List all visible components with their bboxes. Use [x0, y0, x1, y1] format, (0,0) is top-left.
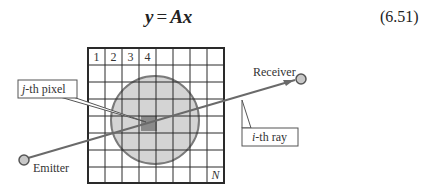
cell-label-2: 2	[111, 50, 117, 64]
cell-label-4: 4	[145, 50, 151, 64]
receiver-node	[296, 74, 306, 84]
receiver-label: Receiver	[253, 65, 296, 79]
ray-callout-suffix: -th ray	[255, 130, 287, 144]
pixel-grid	[88, 48, 224, 183]
emitter-label: Emitter	[33, 161, 69, 175]
pixel-callout-suffix: -th pixel	[25, 82, 66, 96]
cell-label-1: 1	[94, 50, 100, 64]
ray-callout-text: i-th ray	[252, 130, 287, 144]
cell-label-3: 3	[128, 50, 134, 64]
pixel-callout-text: j-th pixel	[20, 82, 66, 96]
ray-callout: i-th ray	[242, 100, 298, 146]
emitter-node	[19, 155, 29, 165]
cell-label-n: N	[210, 168, 220, 182]
ray-arrowhead	[283, 80, 294, 86]
tomography-diagram: 1 2 3 4 N Emitter Receiver j-th pixel i-…	[0, 0, 445, 195]
ray-callout-pointer	[242, 100, 251, 128]
